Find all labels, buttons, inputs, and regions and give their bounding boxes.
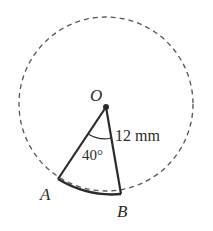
sector-diagram: O A B 12 mm 40° [0,0,213,231]
center-dot [103,104,109,110]
angle-mark [88,134,111,139]
radius-label: 12 mm [115,127,160,144]
radius-OB [106,107,121,194]
angle-label: 40° [82,147,103,163]
label-O: O [90,86,102,105]
arc-AB [58,179,121,194]
label-B: B [117,202,128,221]
radius-OA [58,107,106,179]
label-A: A [39,185,51,204]
